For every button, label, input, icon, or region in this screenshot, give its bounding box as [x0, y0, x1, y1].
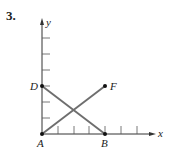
point-f [103, 84, 107, 88]
coordinate-diagram: y x A B D F [0, 0, 172, 158]
label-d: D [29, 80, 38, 92]
y-axis-arrow-icon [40, 18, 44, 25]
point-d [40, 84, 44, 88]
y-axis: y [40, 16, 51, 134]
y-axis-label: y [45, 16, 51, 28]
label-b: B [101, 137, 108, 149]
label-f: F [109, 80, 117, 92]
point-b [103, 132, 107, 136]
label-a: A [36, 137, 44, 149]
x-axis-arrow-icon [149, 132, 156, 136]
x-axis-label: x [157, 127, 163, 139]
point-a [40, 132, 44, 136]
